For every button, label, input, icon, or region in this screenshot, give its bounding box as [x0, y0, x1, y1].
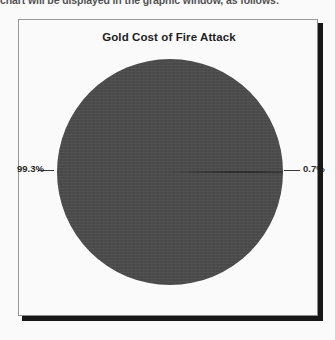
intro-paragraph: chart will be displayed in the graphic w…	[0, 0, 335, 8]
panel-shadow-bottom	[22, 316, 323, 321]
chart-title: Gold Cost of Fire Attack	[19, 31, 319, 43]
leader-line-right	[284, 170, 300, 171]
panel-shadow-right	[318, 23, 323, 321]
pie-chart	[57, 59, 283, 285]
pie-label-major: 99.3%	[17, 163, 37, 174]
chart-panel: Gold Cost of Fire Attack 99.3% 0.7%	[18, 19, 318, 316]
